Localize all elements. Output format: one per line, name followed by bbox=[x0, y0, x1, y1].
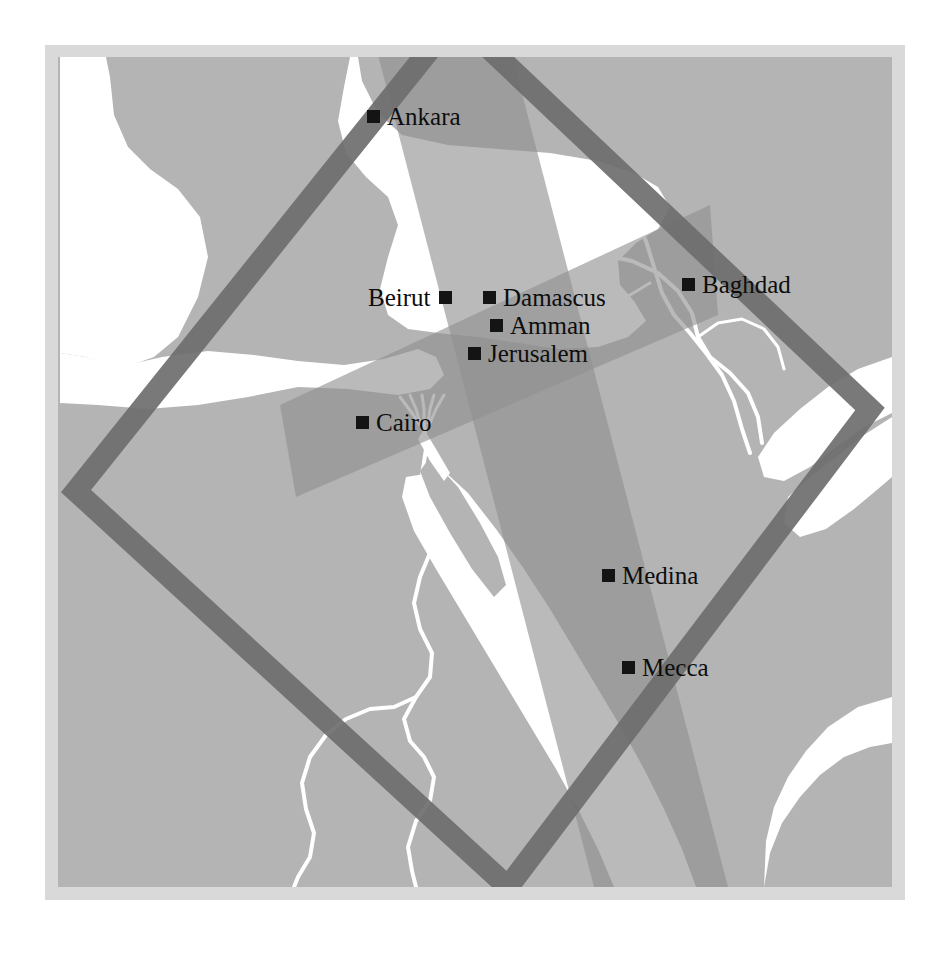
city-marker-icon bbox=[356, 416, 369, 429]
city-marker-icon bbox=[439, 291, 452, 304]
diamond-outline[interactable] bbox=[76, 57, 870, 887]
city-label-ankara[interactable]: Ankara bbox=[367, 104, 461, 129]
city-marker-icon bbox=[483, 291, 496, 304]
city-name: Amman bbox=[510, 313, 591, 338]
city-label-amman[interactable]: Amman bbox=[490, 313, 591, 338]
city-name: Ankara bbox=[387, 104, 461, 129]
city-name: Jerusalem bbox=[488, 341, 588, 366]
map-canvas bbox=[58, 57, 892, 887]
city-label-baghdad[interactable]: Baghdad bbox=[682, 272, 791, 297]
city-name: Beirut bbox=[368, 285, 431, 310]
city-name: Cairo bbox=[376, 410, 432, 435]
city-marker-icon bbox=[602, 569, 615, 582]
city-name: Baghdad bbox=[702, 272, 791, 297]
city-label-damascus[interactable]: Damascus bbox=[483, 285, 606, 310]
city-marker-icon bbox=[367, 110, 380, 123]
city-label-mecca[interactable]: Mecca bbox=[622, 655, 709, 680]
city-marker-icon bbox=[682, 278, 695, 291]
city-marker-icon bbox=[490, 319, 503, 332]
city-name: Mecca bbox=[642, 655, 709, 680]
city-label-cairo[interactable]: Cairo bbox=[356, 410, 432, 435]
city-marker-icon bbox=[622, 661, 635, 674]
map-figure: Ankara Beirut Damascus Amman Jerusalem B… bbox=[0, 0, 946, 954]
city-marker-icon bbox=[468, 347, 481, 360]
overlay-diamond-layer bbox=[58, 57, 892, 887]
city-name: Medina bbox=[622, 563, 698, 588]
city-label-jerusalem[interactable]: Jerusalem bbox=[468, 341, 588, 366]
city-label-medina[interactable]: Medina bbox=[602, 563, 698, 588]
city-name: Damascus bbox=[503, 285, 606, 310]
city-label-beirut[interactable]: Beirut bbox=[368, 285, 452, 310]
